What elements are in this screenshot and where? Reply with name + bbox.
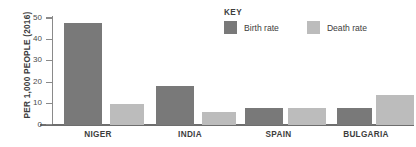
bar-india-death — [202, 112, 236, 125]
bar-spain-birth — [245, 108, 283, 125]
y-tick-label-20: 20 — [18, 78, 42, 86]
y-tick-label-30: 30 — [18, 56, 42, 64]
bar-niger-birth — [64, 23, 102, 125]
x-group-label-spain: SPAIN — [236, 130, 321, 139]
legend-item-birth-rate: Birth rate — [224, 21, 279, 34]
y-tick-label-10: 10 — [18, 99, 42, 107]
legend-items: Birth rate Death rate — [224, 21, 367, 34]
bar-bulgaria-birth — [337, 108, 372, 125]
legend-label-birth-rate: Birth rate — [244, 23, 279, 33]
x-group-label-bulgaria: BULGARIA — [321, 130, 411, 139]
bar-niger-death — [110, 104, 144, 125]
bar-chart: PER 1,000 PEOPLE (2016) 0 10 20 30 40 50… — [0, 0, 416, 147]
x-group-label-india: INDIA — [144, 130, 236, 139]
bar-bulgaria-death — [376, 95, 414, 125]
legend-label-death-rate: Death rate — [327, 23, 367, 33]
bar-india-birth — [156, 86, 194, 125]
legend-title: KEY — [224, 8, 367, 17]
bar-spain-death — [288, 108, 326, 125]
legend-swatch-icon-birth-rate — [224, 21, 237, 34]
y-tick-label-50: 50 — [18, 14, 42, 22]
legend-item-death-rate: Death rate — [307, 21, 367, 34]
y-tick-label-40: 40 — [18, 35, 42, 43]
legend-swatch-icon-death-rate — [307, 21, 320, 34]
x-group-label-niger: NIGER — [52, 130, 144, 139]
legend: KEY Birth rate Death rate — [224, 8, 367, 34]
y-tick-label-0: 0 — [18, 121, 42, 129]
